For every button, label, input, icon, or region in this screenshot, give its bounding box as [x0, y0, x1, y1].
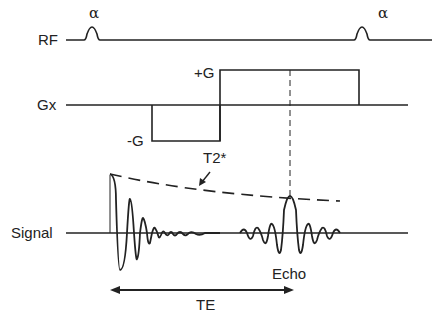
- rf-pulse-label-2: α: [378, 6, 388, 21]
- rf-pulse-label-1: α: [89, 6, 99, 21]
- fid-signal: [110, 174, 220, 270]
- rf-trace: [66, 27, 432, 40]
- t2star-label: T2*: [203, 150, 226, 165]
- te-arrowhead-right: [284, 286, 294, 294]
- signal-row-label: Signal: [11, 225, 53, 240]
- te-arrowhead-left: [110, 286, 120, 294]
- t2star-decay-curve: [110, 174, 340, 201]
- gx-negative-lobe: [152, 105, 220, 141]
- echo-signal: [240, 196, 340, 253]
- gx-negative-label: -G: [127, 133, 144, 148]
- gx-positive-label: +G: [194, 65, 214, 80]
- te-label: TE: [196, 297, 215, 312]
- echo-label: Echo: [272, 266, 306, 281]
- gx-row-label: Gx: [37, 97, 56, 112]
- rf-row-label: RF: [38, 32, 58, 47]
